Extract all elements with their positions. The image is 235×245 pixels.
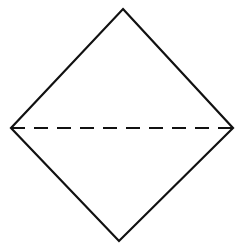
diamond-diagram — [0, 0, 235, 245]
diamond-outline — [11, 9, 233, 241]
